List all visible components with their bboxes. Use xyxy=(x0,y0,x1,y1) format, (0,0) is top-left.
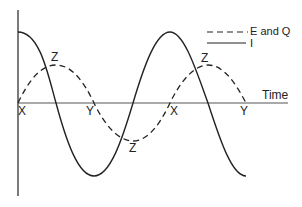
point-label-x2: X xyxy=(170,105,178,117)
point-label-z3: Z xyxy=(201,52,208,64)
legend-label-i: I xyxy=(250,38,253,49)
point-label-x1: X xyxy=(18,105,26,117)
time-axis-label: Time xyxy=(262,89,288,101)
point-label-z1: Z xyxy=(51,51,58,63)
point-label-y1: Y xyxy=(86,105,94,117)
point-label-z2: Z xyxy=(129,142,136,154)
legend-label-e-and-q: E and Q xyxy=(250,26,290,37)
point-label-y2: Y xyxy=(240,105,248,117)
